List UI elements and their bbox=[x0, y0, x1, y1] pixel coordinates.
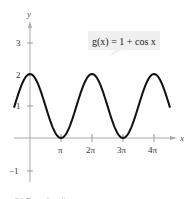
annotation-pointer bbox=[108, 50, 122, 57]
x-tick-pi: π bbox=[58, 145, 63, 155]
y-tick-1: 1 bbox=[16, 101, 21, 111]
y-ticks: 3 2 1 −1 bbox=[9, 38, 33, 176]
function-equation: g(x) = 1 + cos x bbox=[92, 36, 156, 48]
x-tick-3pi: 3π bbox=[117, 145, 127, 155]
y-tick-2: 2 bbox=[16, 70, 21, 80]
cosine-graph: y x 3 2 1 −1 π 2π 3π 4π g(x) = 1 + cos x… bbox=[0, 0, 195, 199]
x-ticks: π 2π 3π 4π bbox=[58, 134, 158, 155]
x-tick-2pi: 2π bbox=[86, 145, 96, 155]
y-tick-neg1: −1 bbox=[9, 166, 19, 176]
y-axis-label: y bbox=[26, 9, 31, 19]
x-tick-4pi: 4π bbox=[148, 145, 158, 155]
figure-caption: (b) Even function bbox=[14, 196, 74, 199]
cosine-curve bbox=[14, 74, 170, 138]
y-axis-arrow-icon bbox=[28, 21, 32, 28]
x-axis-arrow-icon bbox=[170, 136, 177, 140]
x-axis-label: x bbox=[179, 133, 184, 143]
y-tick-3: 3 bbox=[16, 38, 21, 48]
